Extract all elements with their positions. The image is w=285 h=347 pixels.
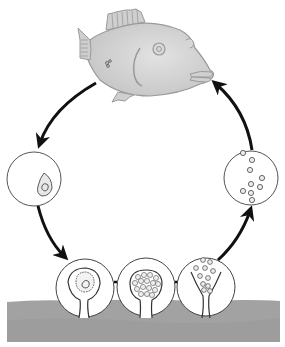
- arrow-fish-to-drop: [40, 83, 96, 143]
- stage-cyst-circle: [56, 259, 114, 318]
- arrow-swarmers-to-fish: [216, 84, 252, 150]
- life-cycle-diagram: Fish parasite life cycle: adult fish, cy…: [0, 0, 285, 347]
- fish-eye-icon: [153, 43, 165, 55]
- host-fish: [78, 9, 214, 102]
- arrow-drop-to-cyst: [38, 206, 64, 256]
- stage-drop-circle: [7, 152, 61, 206]
- stage-swarmers-circle: [224, 150, 278, 205]
- fish-mouth-icon: [190, 71, 213, 82]
- arrow-release-to-swarmers: [218, 211, 250, 260]
